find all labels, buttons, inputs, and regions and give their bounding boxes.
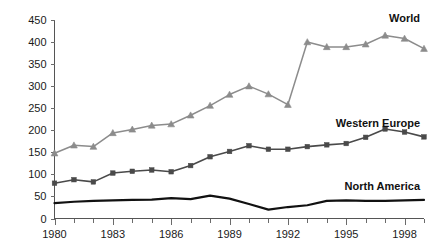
chart-canvas: 050100150200250300350400450 198019831986… (0, 0, 430, 244)
y-tick-label: 450 (28, 14, 46, 26)
y-tick-label: 300 (28, 80, 46, 92)
line-chart: 050100150200250300350400450 198019831986… (0, 0, 430, 244)
x-tick-label: 1995 (334, 228, 358, 240)
data-point-marker (402, 130, 407, 135)
x-tick-label: 1983 (101, 228, 125, 240)
data-point-marker (324, 143, 329, 148)
x-tick-label: 1986 (159, 228, 183, 240)
data-point-marker (286, 147, 291, 152)
y-tick-label: 400 (28, 36, 46, 48)
data-point-marker (305, 144, 310, 149)
data-point-marker (422, 135, 427, 140)
data-point-marker (266, 147, 271, 152)
data-point-marker (363, 135, 368, 140)
data-point-marker (72, 177, 77, 182)
x-tick-label: 1989 (217, 228, 241, 240)
x-tick-label: 1992 (276, 228, 300, 240)
y-tick-label: 250 (28, 102, 46, 114)
y-tick-label: 50 (34, 190, 46, 202)
data-point-marker (52, 181, 57, 186)
series-label-western-europe: Western Europe (336, 117, 420, 129)
x-tick-label: 1980 (42, 228, 66, 240)
data-point-marker (91, 180, 96, 185)
data-point-marker (227, 149, 232, 154)
y-tick-label: 0 (40, 213, 46, 225)
data-point-marker (208, 154, 213, 159)
y-tick-label: 150 (28, 146, 46, 158)
x-tick-label: 1998 (392, 228, 416, 240)
data-point-marker (149, 168, 154, 173)
series-label-north-america: North America (345, 180, 421, 192)
data-point-marker (130, 169, 135, 174)
y-tick-label: 100 (28, 168, 46, 180)
data-point-marker (344, 141, 349, 146)
data-point-marker (111, 171, 116, 176)
data-point-marker (247, 143, 252, 148)
data-point-marker (169, 169, 174, 174)
y-tick-label: 350 (28, 58, 46, 70)
y-tick-label: 200 (28, 124, 46, 136)
data-point-marker (188, 163, 193, 168)
series-label-world: World (389, 12, 420, 24)
